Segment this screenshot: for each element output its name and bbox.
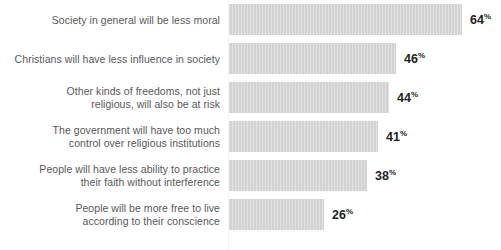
bar-category-label: The government will have too much contro… — [8, 124, 220, 150]
bar-category-label: Society in general will be less moral — [8, 13, 220, 26]
bar-value-label: 41% — [386, 129, 407, 143]
bar-category-label-line1: Society in general will be less moral — [52, 13, 220, 25]
bar-category-label-line1: People will be more free to live — [75, 202, 220, 214]
bar-category-label: People will be more free to live accordi… — [8, 202, 220, 228]
bar-category-label-line2: religious, will also be at risk — [91, 98, 220, 110]
bar-value-label: 64% — [470, 12, 491, 26]
bar — [229, 121, 378, 152]
chart-row: People will be more free to live accordi… — [0, 195, 501, 234]
bar — [229, 82, 389, 113]
bar-category-label-line2: control over religious institutions — [69, 137, 220, 149]
percent-sign: % — [389, 167, 396, 176]
bar-value-number: 38 — [375, 169, 389, 183]
bar-value-number: 41 — [386, 130, 400, 144]
bar-value-label: 44% — [397, 90, 418, 104]
bar — [229, 43, 396, 74]
bar-track: 41% — [229, 121, 378, 152]
bar-track: 26% — [229, 199, 324, 230]
percent-sign: % — [418, 50, 425, 59]
percent-sign: % — [484, 11, 491, 20]
bar-track: 64% — [229, 4, 462, 35]
chart-row: The government will have too much contro… — [0, 117, 501, 156]
bar-category-label-line1: Christians will have less influence in s… — [15, 52, 220, 64]
bar-track: 38% — [229, 160, 367, 191]
bar-value-number: 26 — [332, 208, 346, 222]
bar — [229, 199, 324, 230]
bar-category-label-line1: Other kinds of freedoms, not just — [67, 85, 220, 97]
bar-value-label: 38% — [375, 168, 396, 182]
bar-track: 44% — [229, 82, 389, 113]
bar-category-label-line2: according to their conscience — [83, 215, 220, 227]
percent-sign: % — [346, 206, 353, 215]
percent-sign: % — [400, 128, 407, 137]
bar-category-label: People will have less ability to practic… — [8, 163, 220, 189]
bar-track: 46% — [229, 43, 396, 74]
chart-row: Society in general will be less moral 64… — [0, 0, 501, 39]
bar-value-number: 46 — [404, 52, 418, 66]
chart-row: People will have less ability to practic… — [0, 156, 501, 195]
bar-value-number: 44 — [397, 91, 411, 105]
chart-row: Other kinds of freedoms, not just religi… — [0, 78, 501, 117]
bar-category-label-line2: their faith without interference — [81, 176, 220, 188]
percent-sign: % — [411, 89, 418, 98]
bar-category-label: Other kinds of freedoms, not just religi… — [8, 85, 220, 111]
bar — [229, 160, 367, 191]
bar-category-label-line1: The government will have too much — [53, 124, 220, 136]
bar-category-label: Christians will have less influence in s… — [8, 52, 220, 65]
bar-value-label: 46% — [404, 51, 425, 65]
bar — [229, 4, 462, 35]
bar-value-number: 64 — [470, 13, 484, 27]
chart-row: Christians will have less influence in s… — [0, 39, 501, 78]
bar-value-label: 26% — [332, 207, 353, 221]
bar-category-label-line1: People will have less ability to practic… — [39, 163, 220, 175]
horizontal-bar-chart: Society in general will be less moral 64… — [0, 0, 501, 250]
